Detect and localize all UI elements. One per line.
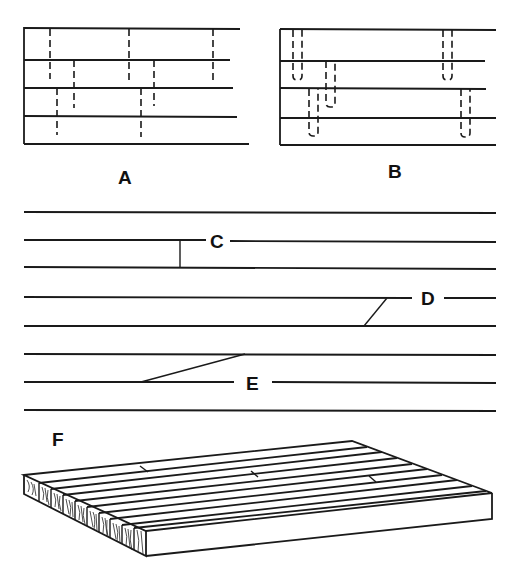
panel-b: B — [280, 29, 496, 182]
strip-line — [51, 452, 382, 489]
strip-line — [24, 116, 237, 117]
long-scarf-joint — [141, 354, 245, 382]
strip-line — [24, 28, 240, 29]
panel-a: A — [24, 27, 249, 188]
strip-line — [24, 354, 496, 355]
hidden-dowel-joint — [443, 30, 452, 80]
strip-line — [87, 469, 427, 507]
panel-e-label: E — [246, 373, 259, 394]
strip-line — [280, 88, 486, 89]
panel-d-label: D — [421, 288, 435, 309]
strip-line — [230, 241, 496, 242]
panel-f: F — [24, 429, 492, 556]
panel-cde: C D E — [24, 212, 496, 411]
strip-line — [63, 458, 397, 495]
strip-line — [280, 29, 496, 30]
end-joint — [369, 476, 376, 482]
strip-line — [99, 475, 442, 513]
strip-line — [39, 447, 367, 483]
hidden-dowel-joint — [309, 89, 318, 136]
hidden-dowel-joint — [293, 30, 302, 80]
hidden-dowel-joint — [326, 61, 335, 107]
hidden-dowel-joint — [461, 89, 470, 137]
short-scarf-joint — [364, 298, 387, 326]
strip-line — [24, 212, 496, 213]
butcher-block-diagram: A B C D E — [0, 0, 516, 570]
panel-c-label: C — [210, 231, 224, 252]
panel-b-label: B — [388, 161, 402, 182]
strip-line — [75, 464, 412, 501]
panel-f-label: F — [52, 429, 64, 450]
top-strip-lines — [39, 447, 486, 528]
strip-line — [24, 410, 496, 411]
strip-line — [24, 267, 496, 269]
strip-line — [24, 297, 412, 298]
panel-a-label: A — [118, 167, 132, 188]
strip-line — [272, 382, 496, 383]
